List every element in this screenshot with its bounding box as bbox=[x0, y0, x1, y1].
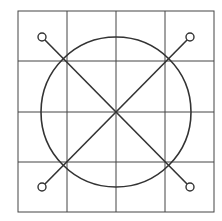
endpoint-circle bbox=[38, 33, 46, 41]
endpoint-circle bbox=[186, 33, 194, 41]
endpoint-circle bbox=[186, 183, 194, 191]
endpoint-circle bbox=[38, 183, 46, 191]
diagram-canvas bbox=[0, 0, 222, 221]
